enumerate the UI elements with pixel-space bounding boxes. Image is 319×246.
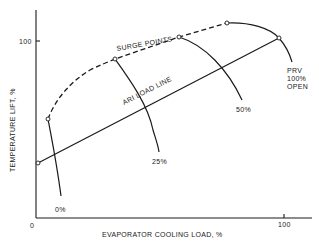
x-tick-label-0: 0 — [30, 222, 34, 229]
surge-line — [48, 23, 227, 119]
x-tick-label-100: 100 — [278, 221, 291, 228]
surge-point-50 — [177, 35, 181, 39]
curve-50-percent — [179, 37, 242, 100]
prv-label-line1: PRV — [287, 67, 302, 74]
y-tick-label-100: 100 — [19, 38, 32, 45]
x-axis-title: EVAPORATOR COOLING LOAD, % — [102, 231, 223, 238]
surge-point-25 — [113, 57, 117, 61]
chart-canvas: 100 0 100 TEMPERATURE LIFT, % EVAPORATOR… — [0, 0, 319, 246]
curve-25-percent — [115, 59, 159, 152]
surge-point-0 — [46, 117, 50, 121]
prv-100-open-curve — [227, 23, 292, 62]
curve-50-label: 50% — [236, 106, 251, 113]
curve-0-percent — [48, 119, 61, 196]
curve-25-label: 25% — [152, 158, 167, 165]
prv-label-line3: OPEN — [287, 83, 308, 90]
ari-load-line — [38, 38, 279, 163]
ari-origin-point — [36, 161, 40, 165]
curve-0-label: 0% — [55, 206, 66, 213]
ari-full-load-point — [277, 36, 281, 40]
prv-label-line2: 100% — [287, 75, 306, 82]
y-axis-title: TEMPERATURE LIFT, % — [9, 88, 16, 172]
surge-point-prv — [225, 21, 229, 25]
